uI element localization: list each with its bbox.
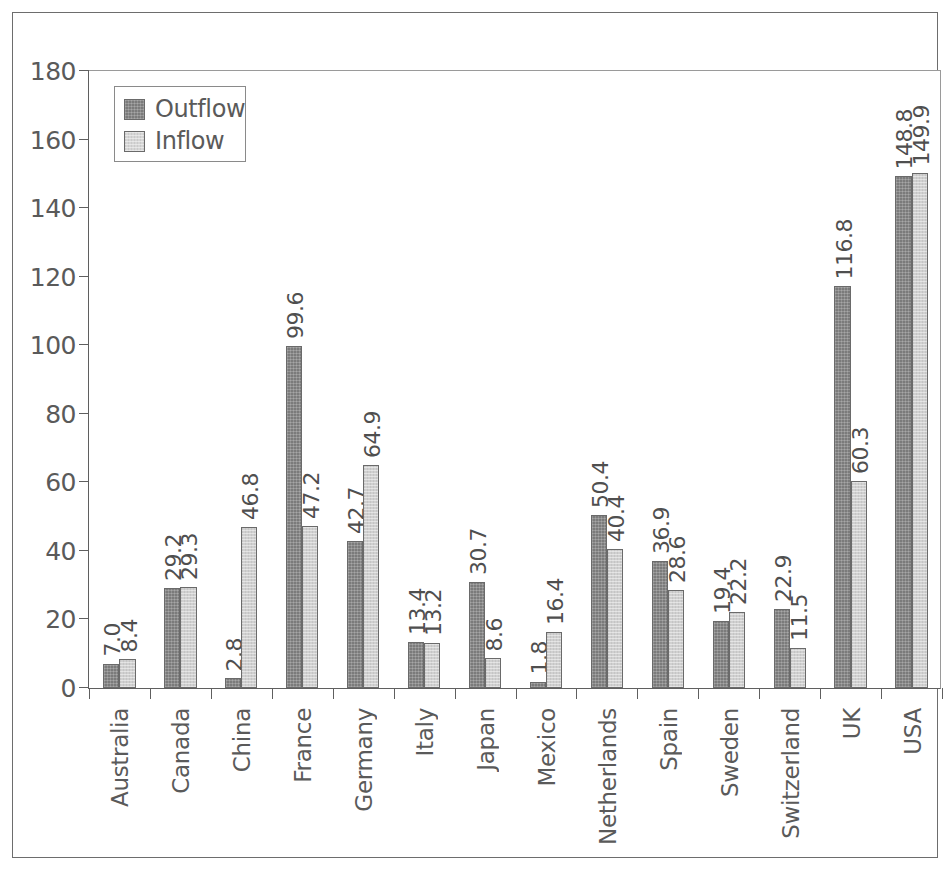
x-axis-label: China	[229, 708, 255, 772]
legend-item-inflow: Inflow	[124, 125, 245, 157]
bar-outflow	[225, 678, 241, 688]
x-axis-tick	[89, 688, 90, 699]
plot-area: 020406080100120140160180 AustraliaCanada…	[88, 70, 941, 689]
x-axis-tick	[211, 688, 212, 699]
bar-value-label: 22.2	[726, 558, 751, 605]
x-axis-tick	[576, 688, 577, 699]
bar-value-label: 30.7	[466, 528, 491, 575]
y-axis-label: 20	[45, 605, 76, 634]
bar-outflow	[408, 642, 424, 688]
bar-value-label: 40.4	[604, 495, 629, 542]
x-axis-tick	[516, 688, 517, 699]
bar-value-label: 116.8	[832, 219, 857, 279]
bar-inflow	[912, 173, 928, 688]
bar-inflow	[424, 643, 440, 688]
x-axis-label: Canada	[168, 708, 194, 794]
x-axis-tick	[759, 688, 760, 699]
bar-value-label: 46.8	[238, 473, 263, 520]
bar-value-label: 8.6	[482, 618, 507, 652]
x-axis-label: Switzerland	[778, 708, 804, 839]
bar-inflow	[729, 612, 745, 688]
x-axis-tick	[272, 688, 273, 699]
legend-swatch-inflow-icon	[124, 131, 145, 152]
bar-inflow	[302, 526, 318, 688]
x-axis-tick	[820, 688, 821, 699]
bar-inflow	[485, 658, 501, 688]
x-axis-label: Sweden	[717, 708, 743, 797]
bar-inflow	[851, 481, 867, 688]
bar-outflow	[834, 286, 850, 688]
x-axis-label: Mexico	[534, 708, 560, 787]
bar-value-label: 16.4	[543, 578, 568, 625]
bar-inflow	[546, 632, 562, 688]
x-axis-tick	[698, 688, 699, 699]
bar-inflow	[180, 587, 196, 688]
bar-inflow	[790, 648, 806, 688]
x-axis-tick	[881, 688, 882, 699]
bar-inflow	[668, 590, 684, 688]
chart-legend: Outflow Inflow	[114, 86, 246, 162]
x-axis-label: Germany	[351, 708, 377, 812]
y-axis-tick	[79, 276, 89, 277]
y-axis-tick	[79, 70, 89, 71]
y-axis-label: 120	[30, 262, 76, 291]
x-axis-tick	[455, 688, 456, 699]
bar-value-label: 149.9	[909, 105, 934, 165]
y-axis-label: 160	[30, 125, 76, 154]
y-axis-label: 180	[30, 57, 76, 86]
bar-value-label: 13.2	[421, 589, 446, 636]
bar-value-label: 28.6	[665, 536, 690, 583]
bar-inflow	[363, 465, 379, 688]
bar-value-label: 99.6	[283, 292, 308, 339]
bar-outflow	[713, 621, 729, 688]
legend-swatch-outflow-icon	[124, 99, 145, 120]
x-axis-label: France	[290, 708, 316, 783]
y-axis-tick	[79, 550, 89, 551]
bar-inflow	[119, 659, 135, 688]
bar-inflow	[607, 549, 623, 688]
y-axis-label: 80	[45, 399, 76, 428]
y-axis-tick	[79, 481, 89, 482]
x-axis-label: Spain	[656, 708, 682, 771]
x-axis-tick	[333, 688, 334, 699]
bar-outflow	[103, 664, 119, 688]
bar-value-label: 60.3	[848, 427, 873, 474]
x-axis-tick	[394, 688, 395, 699]
y-axis-label: 140	[30, 194, 76, 223]
bar-outflow	[895, 176, 911, 688]
x-axis-label: USA	[900, 708, 926, 755]
y-axis-label: 0	[61, 674, 76, 703]
legend-item-outflow: Outflow	[124, 93, 245, 125]
x-axis-tick	[150, 688, 151, 699]
legend-label-outflow: Outflow	[155, 95, 245, 123]
x-axis-label: Italy	[412, 708, 438, 756]
y-axis-tick	[79, 344, 89, 345]
y-axis-tick	[79, 207, 89, 208]
y-axis-tick	[79, 413, 89, 414]
bar-outflow	[164, 588, 180, 688]
y-axis-label: 100	[30, 331, 76, 360]
x-axis-tick	[942, 688, 943, 699]
bar-outflow	[530, 682, 546, 688]
bar-value-label: 64.9	[360, 411, 385, 458]
x-axis-label: UK	[839, 708, 865, 739]
y-axis-label: 60	[45, 468, 76, 497]
y-axis-tick	[79, 687, 89, 688]
y-axis-tick	[79, 618, 89, 619]
y-axis-label: 40	[45, 536, 76, 565]
y-axis-tick	[79, 139, 89, 140]
x-axis-label: Japan	[473, 708, 499, 771]
bar-outflow	[347, 541, 363, 688]
x-axis-label: Netherlands	[595, 708, 621, 845]
bar-value-label: 11.5	[787, 594, 812, 641]
legend-label-inflow: Inflow	[155, 127, 224, 155]
x-axis-tick	[637, 688, 638, 699]
bar-inflow	[241, 527, 257, 688]
bar-value-label: 47.2	[299, 472, 324, 519]
bar-value-label: 8.4	[117, 619, 142, 653]
chart-frame: 020406080100120140160180 AustraliaCanada…	[12, 12, 938, 858]
x-axis-label: Australia	[107, 708, 133, 807]
bar-value-label: 29.3	[177, 533, 202, 580]
